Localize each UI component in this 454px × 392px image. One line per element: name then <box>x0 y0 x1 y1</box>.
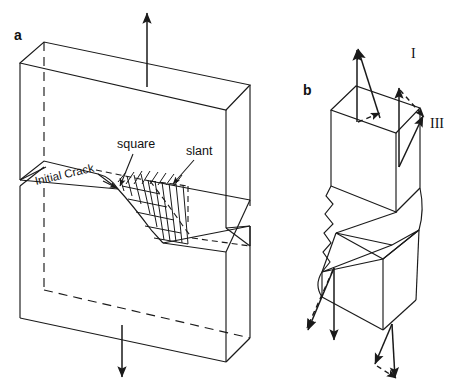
figure-container: a <box>0 0 454 392</box>
lower-fracture-half <box>318 230 419 330</box>
slant-callout: slant <box>173 144 213 184</box>
slant-label: slant <box>186 144 213 158</box>
specimen-lower-block <box>20 167 250 362</box>
panel-a: a <box>14 13 250 377</box>
mode-three-label: III <box>430 116 444 131</box>
upper-fracture-half <box>322 86 422 272</box>
panel-b-label: b <box>303 82 312 98</box>
panel-a-label: a <box>14 27 22 43</box>
panel-b: b <box>303 46 444 378</box>
square-label: square <box>117 137 155 151</box>
mode-one-label: I <box>411 46 416 61</box>
initial-crack-callout: Initial Crack <box>34 162 117 188</box>
fracture-diagram-svg: a <box>0 0 454 392</box>
fracture-surface <box>96 170 250 252</box>
mode-arrows-upper: I III <box>357 46 444 167</box>
